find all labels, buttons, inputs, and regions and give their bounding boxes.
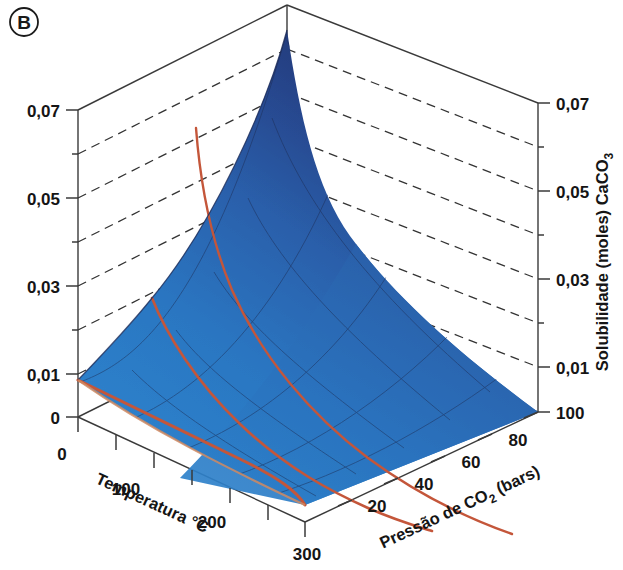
axis-left-label-005: 0,05 [27, 190, 60, 209]
axis-left-label-003: 0,03 [27, 278, 60, 297]
axis-pressure-label-80: 80 [509, 431, 528, 450]
panel-label-text: B [17, 12, 31, 33]
axis-pressure-label-60: 60 [462, 453, 481, 472]
axis-right-label-pressure-100: 100 [556, 404, 584, 423]
axis-right-title-subscript: 3 [602, 152, 616, 159]
axis-left-label-007: 0,07 [27, 102, 60, 121]
axis-pressure-label-40: 40 [415, 475, 434, 494]
axis-temperature-label-300: 300 [293, 545, 321, 564]
axis-temperature-label-0: 0 [57, 445, 66, 464]
axis-left-label-001: 0,01 [27, 366, 60, 385]
axis-right-label-005: 0,05 [556, 183, 589, 202]
axis-right-label-007: 0,07 [556, 95, 589, 114]
axis-left-label-000: 0 [51, 409, 60, 428]
axis-pressure-label-20: 20 [368, 497, 387, 516]
axis-right-label-003: 0,03 [556, 271, 589, 290]
axis-right-label-001: 0,01 [556, 359, 589, 378]
axis-right-title-main: Solubilidade (moles) CaCO [593, 159, 611, 371]
solubility-surface-figure: B [0, 0, 623, 570]
